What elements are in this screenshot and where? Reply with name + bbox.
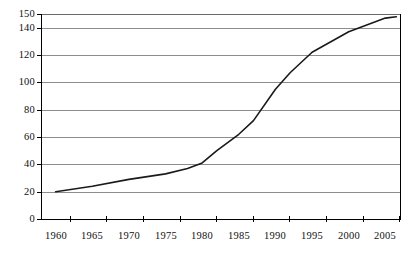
y-axis-label-0: 0 xyxy=(30,214,35,225)
y-axis-label-100: 100 xyxy=(19,77,35,88)
y-axis-label-150: 150 xyxy=(19,9,35,20)
y-axis-label-20: 20 xyxy=(24,187,35,198)
gridline-150 xyxy=(41,14,400,15)
x-axis-label-1975: 1975 xyxy=(152,230,180,241)
gridline-20 xyxy=(41,192,400,193)
x-axis-label-1985: 1985 xyxy=(225,230,253,241)
x-tick-2005 xyxy=(399,216,400,222)
gridline-80 xyxy=(41,110,400,111)
plot-right-border xyxy=(400,14,401,220)
x-axis-label-1960: 1960 xyxy=(42,230,70,241)
plot-area xyxy=(41,14,400,219)
x-axis-label-2005: 2005 xyxy=(371,230,399,241)
x-axis-label-1990: 1990 xyxy=(261,230,289,241)
x-axis-label-1970: 1970 xyxy=(115,230,143,241)
x-tick-1985 xyxy=(253,216,254,222)
x-tick-1970 xyxy=(143,216,144,222)
gridline-60 xyxy=(41,137,400,138)
y-axis-label-60: 60 xyxy=(24,132,35,143)
x-axis-line xyxy=(41,219,401,220)
x-tick-1965 xyxy=(106,216,107,222)
x-tick-2000 xyxy=(363,216,364,222)
y-axis-label-140: 140 xyxy=(19,23,35,34)
x-axis-label-2000: 2000 xyxy=(335,230,363,241)
x-tick-1995 xyxy=(326,216,327,222)
y-axis-label-40: 40 xyxy=(24,159,35,170)
y-axis-label-120: 120 xyxy=(19,50,35,61)
x-tick-1980 xyxy=(216,216,217,222)
y-axis-line xyxy=(41,14,42,220)
gridline-40 xyxy=(41,164,400,165)
x-tick-1960 xyxy=(70,216,71,222)
x-tick-1990 xyxy=(289,216,290,222)
y-axis-label-80: 80 xyxy=(24,105,35,116)
gridline-100 xyxy=(41,82,400,83)
x-axis-label-1995: 1995 xyxy=(298,230,326,241)
gridline-140 xyxy=(41,28,400,29)
x-tick-1975 xyxy=(180,216,181,222)
x-axis-label-1965: 1965 xyxy=(78,230,106,241)
gridline-120 xyxy=(41,55,400,56)
x-axis-label-1980: 1980 xyxy=(188,230,216,241)
line-chart: 020406080100120140150 196019651970197519… xyxy=(0,0,416,259)
